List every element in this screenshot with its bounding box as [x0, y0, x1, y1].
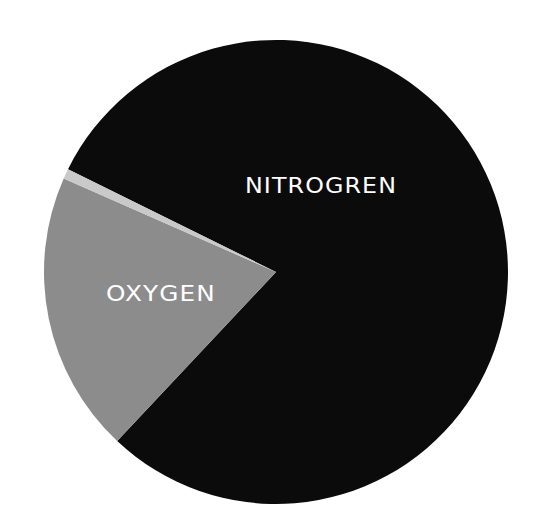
- label-oxygen: OXYGEN: [106, 281, 216, 306]
- pie: [44, 40, 508, 504]
- label-nitrogen: NITROGREN: [245, 173, 397, 198]
- pie-chart: NITROGREN OXYGEN: [0, 0, 535, 521]
